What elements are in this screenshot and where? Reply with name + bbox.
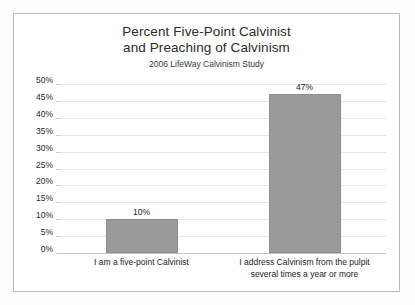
category-label: I address Calvinism from the pulpitsever… xyxy=(223,257,386,280)
y-axis-tick xyxy=(56,185,60,186)
y-axis-tick xyxy=(56,253,60,254)
chart-title-line-2: and Preaching of Calvinism xyxy=(14,40,399,56)
y-axis-label: 15% xyxy=(36,198,53,199)
bar-value-label: 47% xyxy=(296,82,313,92)
y-axis-label: 45% xyxy=(36,97,53,98)
category-label-line: I am a five-point Calvinist xyxy=(60,257,223,269)
chart-subtitle: 2006 LifeWay Calvinism Study xyxy=(14,58,399,71)
y-axis-tick xyxy=(56,152,60,153)
bar-value-label: 10% xyxy=(133,207,150,217)
category-label: I am a five-point Calvinist xyxy=(60,257,223,269)
gridline xyxy=(60,84,386,85)
bar: 47% xyxy=(269,94,341,253)
y-axis-tick xyxy=(56,236,60,237)
category-label-line: several times a year or more xyxy=(223,269,386,281)
chart-title-block: Percent Five-Point Calvinist and Preachi… xyxy=(14,24,399,71)
y-axis-label: 5% xyxy=(41,232,53,233)
y-axis-tick xyxy=(56,101,60,102)
y-axis-label: 10% xyxy=(36,215,53,216)
bar: 10% xyxy=(106,219,178,253)
category-axis: I am a five-point CalvinistI address Cal… xyxy=(60,257,386,291)
y-axis-tick xyxy=(56,84,60,85)
plot-area: 50%45%40%35%30%25%20%15%10%5%0%10%47% xyxy=(60,84,386,253)
y-axis-tick xyxy=(56,219,60,220)
y-axis-label: 35% xyxy=(36,131,53,132)
y-axis-label: 20% xyxy=(36,181,53,182)
y-axis-label: 25% xyxy=(36,165,53,166)
y-axis-tick xyxy=(56,135,60,136)
chart-title-line-1: Percent Five-Point Calvinist xyxy=(14,24,399,40)
y-axis-tick xyxy=(56,202,60,203)
y-axis-label: 40% xyxy=(36,114,53,115)
y-axis-label: 30% xyxy=(36,148,53,149)
chart-frame: Percent Five-Point Calvinist and Preachi… xyxy=(13,13,400,292)
y-axis-tick xyxy=(56,169,60,170)
axis-baseline xyxy=(60,253,386,254)
y-axis-label: 50% xyxy=(36,80,53,81)
y-axis-label: 0% xyxy=(41,249,53,250)
y-axis-tick xyxy=(56,118,60,119)
category-label-line: I address Calvinism from the pulpit xyxy=(223,257,386,269)
